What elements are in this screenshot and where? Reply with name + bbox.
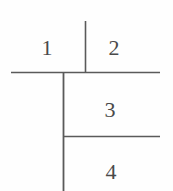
figure-container: 1234 — [0, 0, 173, 191]
region-label-4: 4 — [106, 161, 117, 183]
region-label-3: 3 — [105, 99, 116, 121]
diagram-lines — [0, 0, 173, 191]
region-label-1: 1 — [42, 37, 53, 59]
region-label-2: 2 — [109, 37, 120, 59]
